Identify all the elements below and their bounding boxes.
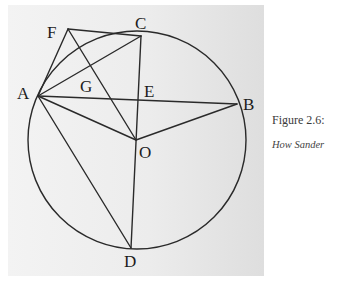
label-E: E [144,82,154,101]
label-A: A [17,84,30,103]
segment-OB [136,104,237,140]
label-B: B [243,95,254,114]
segment-AD [38,96,131,248]
label-O: O [139,143,151,162]
figure-caption-subtitle: How Sander [272,139,324,150]
label-D: D [124,252,136,271]
figure-caption-title: Figure 2.6: [272,113,325,128]
label-G: G [80,77,92,96]
label-F: F [47,23,56,42]
label-C: C [135,14,146,33]
segment-CD [131,36,141,248]
segment-FC [68,29,141,36]
segment-AO [38,96,136,140]
